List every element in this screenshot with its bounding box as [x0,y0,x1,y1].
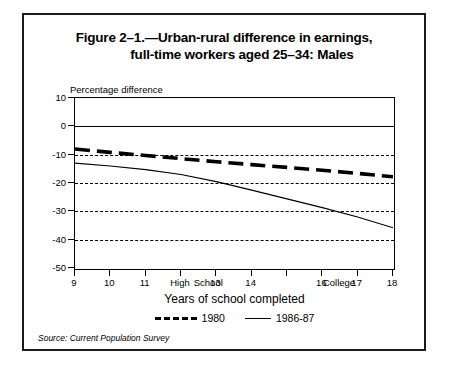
x-tick-mark [109,270,110,276]
x-tick-label: 14 [245,277,256,288]
x-axis-tick-marks [74,270,395,276]
y-tick-label: 0 [36,120,66,131]
x-tick-mark [286,270,287,276]
x-tick-mark [392,270,393,276]
y-tick-label: -20 [36,177,66,188]
x-tick-mark [180,270,181,276]
x-tick-label: 18 [387,277,398,288]
y-axis-title: Percentage difference [70,84,163,95]
y-tick-label: 10 [36,92,66,103]
legend-item-1980: 1980 [155,312,225,324]
x-tick-mark [251,270,252,276]
x-tick-label: 13 [210,277,221,288]
x-tick-mark [321,270,322,276]
x-tick-label: High [170,277,190,288]
y-tick-label: -50 [36,262,66,273]
x-tick-mark [145,270,146,276]
y-tick-label: -40 [36,233,66,244]
x-tick-label: 11 [140,277,150,288]
legend-swatch-dashed-line [155,317,197,320]
x-tick-mark [357,270,358,276]
gridline [75,211,394,212]
figure-frame: Figure 2–1.—Urban-rural difference in ea… [22,13,426,351]
zero-line [75,126,394,127]
x-tick-mark [215,270,216,276]
gridline [75,183,394,184]
gridline [75,240,394,241]
plot-box [74,97,395,270]
series-line-1980 [75,149,393,177]
legend-item-1986-87: 1986-87 [245,312,315,324]
y-tick-label: -10 [36,148,66,159]
chart-area: Percentage difference 100-10-20-30-40-50… [24,15,428,353]
y-axis-tick-labels: 100-10-20-30-40-50 [24,97,70,270]
x-tick-label: 9 [71,277,76,288]
x-axis-tick-labels: 91011HighSchool131416College1718 [74,277,395,291]
x-tick-label: College [323,277,355,288]
source-note: Source: Current Population Survey [38,333,169,343]
x-tick-label: 10 [104,277,115,288]
x-tick-mark [74,270,75,276]
legend-label-1980: 1980 [202,312,225,324]
y-tick-label: -30 [36,205,66,216]
legend-label-1986-87: 1986-87 [276,312,315,324]
x-tick-label: 17 [351,277,362,288]
gridline [75,155,394,156]
chart-legend: 1980 1986-87 [74,312,395,324]
legend-swatch-solid-line [245,318,271,319]
x-axis-title: Years of school completed [74,292,395,306]
